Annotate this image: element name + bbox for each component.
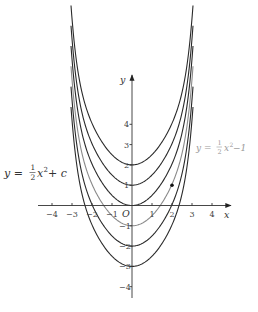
x-tick-label: −2 — [86, 210, 98, 219]
svg-text:1: 1 — [218, 139, 222, 147]
svg-text:y =: y = — [3, 167, 23, 180]
general-equation-label: y = 1 2 x 2 + c — [3, 163, 67, 182]
svg-text:−1: −1 — [233, 143, 246, 153]
svg-text:1: 1 — [31, 163, 36, 172]
y-tick-label: −1 — [119, 222, 131, 231]
y-tick-label: 4 — [124, 120, 129, 129]
svg-text:x: x — [224, 143, 229, 153]
y-axis-label: y — [119, 74, 126, 85]
particular-equation-label: y = 1 2 x 2 −1 — [195, 139, 246, 156]
x-tick-label: 3 — [190, 210, 195, 219]
svg-text:y =: y = — [195, 143, 212, 153]
y-tick-label: −4 — [119, 283, 131, 292]
svg-text:2: 2 — [218, 148, 222, 156]
x-axis-label: x — [224, 209, 230, 220]
svg-text:2: 2 — [31, 173, 36, 182]
parabola-family-diagram: −4−3−2−11234 4321−1−2−3−4 x y O y = 1 2 … — [0, 0, 258, 312]
y-tick-label: −3 — [119, 262, 131, 271]
origin-label: O — [122, 208, 130, 219]
x-tick-label: −4 — [46, 210, 58, 219]
y-tick-label: −2 — [119, 242, 131, 251]
x-tick-label: 4 — [210, 210, 215, 219]
y-axis-ticks: 4321−1−2−3−4 — [119, 120, 132, 291]
y-tick-label: 1 — [124, 181, 129, 190]
svg-text:+ c: + c — [48, 167, 67, 180]
x-tick-label: −3 — [66, 210, 78, 219]
x-tick-label: 2 — [170, 210, 175, 219]
x-tick-label: 1 — [150, 210, 155, 219]
y-tick-label: 2 — [124, 161, 129, 170]
point-2-1 — [170, 183, 174, 187]
y-tick-label: 3 — [124, 141, 129, 150]
x-tick-label: −1 — [106, 210, 118, 219]
